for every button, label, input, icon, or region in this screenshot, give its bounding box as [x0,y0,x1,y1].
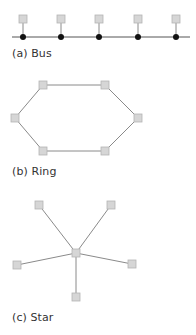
ring-node-icon [101,81,109,89]
ring-node-icon [134,114,142,122]
ring-node-icon [39,147,47,155]
star-link-line [76,253,132,264]
bus-tap-icon [20,34,26,40]
star-node-icon [107,201,115,209]
bus-tap-icon [173,34,179,40]
ring-link-line [15,85,43,118]
ring-node-icon [101,147,109,155]
bus-tap-icon [58,34,64,40]
star-link-line [39,205,76,253]
star-label: (c) Star [12,311,54,324]
star-hub-icon [72,249,80,257]
star-node-icon [128,260,136,268]
star-link-line [76,205,111,253]
star-link-line [17,253,76,265]
ring-link-line [15,118,43,151]
bus-node-icon [134,15,142,23]
ring-node-icon [11,114,19,122]
bus-label: (a) Bus [12,47,52,60]
bus-node-icon [95,15,103,23]
star-node-icon [13,261,21,269]
ring-node-icon [39,81,47,89]
bus-node-icon [57,15,65,23]
ring-label: (b) Ring [12,165,57,178]
star-node-icon [35,201,43,209]
ring-link-line [105,118,138,151]
bus-node-icon [19,15,27,23]
bus-tap-icon [135,34,141,40]
ring-link-line [105,85,138,118]
bus-node-icon [172,15,180,23]
star-node-icon [72,293,80,301]
bus-tap-icon [96,34,102,40]
